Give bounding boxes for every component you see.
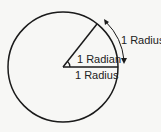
arc-label: 1 Radius xyxy=(121,34,161,46)
angle-arc xyxy=(68,62,71,68)
radian-diagram: 1 Radius 1 Radian 1 Radius xyxy=(0,0,161,132)
arrowhead-bottom-icon xyxy=(121,58,127,64)
angle-label: 1 Radian xyxy=(77,53,121,65)
base-label: 1 Radius xyxy=(75,69,119,81)
